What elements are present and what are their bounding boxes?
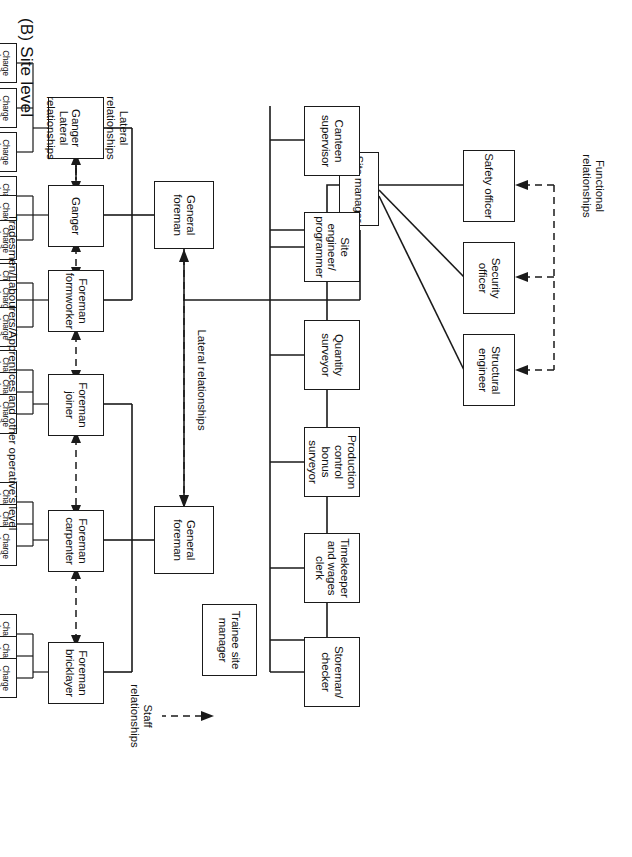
label-lateral-relationships-foremen: Lateral relationships [195, 300, 208, 460]
label-staff-relationships: Staff relationships [128, 650, 154, 782]
box-foreman-formworker[interactable]: Foreman formworker [48, 270, 104, 332]
box-charge-hand[interactable]: Charge hand [0, 88, 17, 128]
box-canteen-supervisor[interactable]: Canteen supervisor [304, 106, 360, 176]
box-foreman-carpenter[interactable]: Foreman carpenter [48, 510, 104, 572]
box-charge-hand[interactable]: Charge hand [0, 132, 17, 172]
label-functional-relationships: Functional relationships [580, 118, 606, 254]
box-general-foreman-1[interactable]: General foreman [154, 181, 214, 249]
label-lateral-relationships-ganger: Lateral relationships [104, 62, 130, 194]
box-ganger-2[interactable]: Ganger [48, 185, 104, 247]
box-quantity-surveyor[interactable]: Quantity surveyor [304, 320, 360, 390]
box-foreman-joiner[interactable]: Foreman joiner [48, 374, 104, 436]
box-charge-hand[interactable]: Charge hand [0, 526, 17, 566]
box-foreman-bricklayer[interactable]: Foreman bricklayer [48, 642, 104, 704]
box-structural-engineer[interactable]: Structural engineer [463, 334, 515, 406]
box-timekeeper-wages-clerk[interactable]: Timekeeper and wages clerk [304, 533, 360, 603]
box-production-control-bonus-surveyor[interactable]: Production control bonus surveyor [304, 427, 360, 497]
operatives-level-note: Tradesmen/Labourers/Apprentices and othe… [7, 214, 20, 530]
org-chart-canvas: (B) Site level Tradesmen/Labourers/Appre… [0, 0, 632, 857]
diagram-rotator: (B) Site level Tradesmen/Labourers/Appre… [0, 0, 632, 857]
box-charge-hand[interactable]: Charge hand [0, 43, 17, 83]
label-lateral-relationships-chargehand: Lateral relationships [44, 62, 70, 194]
box-safety-officer[interactable]: Safety officer [463, 150, 515, 222]
box-site-engineer-programmer[interactable]: Site engineer/ programmer [304, 212, 360, 282]
box-charge-hand[interactable]: Charge hand [0, 658, 17, 698]
page-title: (B) Site level [16, 18, 36, 117]
box-trainee-site-manager[interactable]: Trainee site manager [202, 604, 257, 676]
box-security-officer[interactable]: Security officer [463, 242, 515, 314]
box-general-foreman-2[interactable]: General foreman [154, 506, 214, 574]
box-storeman-checker[interactable]: Storeman/ checker [304, 637, 360, 707]
